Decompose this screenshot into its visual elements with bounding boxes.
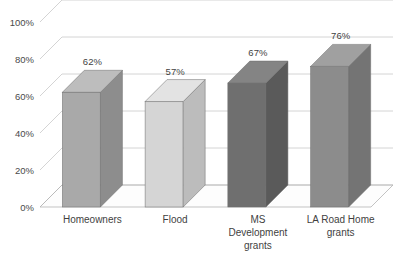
bar-chart: 0%20%40%60%80%100% 62%57%67%76% Homeowne…	[0, 0, 416, 267]
bar-front-face	[311, 66, 349, 207]
bar-value-label: 57%	[166, 66, 186, 77]
y-axis-tick-label: 40%	[15, 128, 35, 139]
bar-value-label: 62%	[83, 56, 103, 67]
bar-column	[228, 61, 288, 207]
bar-front-face	[228, 83, 266, 207]
y-axis-tick-label: 20%	[15, 165, 35, 176]
x-axis-category-labels: HomeownersFloodMSDevelopmentgrantsLA Roa…	[63, 214, 375, 251]
bar-value-label: 67%	[248, 47, 268, 58]
bar-column	[62, 70, 122, 207]
y-axis-tick-labels: 0%20%40%60%80%100%	[10, 17, 35, 213]
bar-value-label: 76%	[331, 30, 351, 41]
y-axis-tick-label: 100%	[10, 17, 35, 28]
x-axis-category-label: LA Road Home	[307, 214, 375, 225]
x-axis-category-label: grants	[244, 240, 272, 251]
bar-side-face	[266, 61, 288, 207]
y-axis-tick-label: 80%	[15, 54, 35, 65]
bars	[62, 44, 370, 207]
bar-column	[145, 80, 205, 207]
y-axis-tick-label: 0%	[20, 202, 34, 213]
x-axis-category-label: Flood	[163, 214, 188, 225]
bar-column	[311, 44, 371, 207]
y-axis-tick-label: 60%	[15, 91, 35, 102]
x-axis-category-label: Homeowners	[63, 214, 122, 225]
bar-front-face	[145, 102, 183, 207]
x-axis-category-label: Development	[228, 227, 287, 238]
bar-side-face	[183, 80, 205, 207]
x-axis-category-label: grants	[327, 227, 355, 238]
x-axis-category-label: MS	[250, 214, 265, 225]
bar-front-face	[62, 92, 100, 207]
bar-side-face	[349, 44, 371, 207]
bar-side-face	[100, 70, 122, 207]
